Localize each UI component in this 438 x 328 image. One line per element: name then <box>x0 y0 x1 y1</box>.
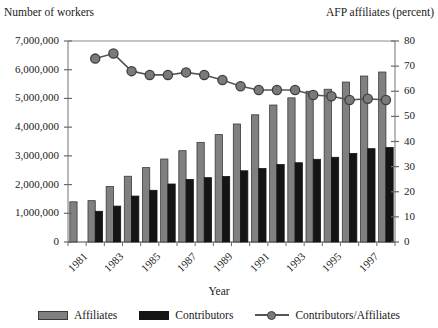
y-axis-tick-label-left: 2,000,000 <box>0 178 59 190</box>
y-axis-tick-label-right: 60 <box>404 84 415 96</box>
legend-item-ratio: Contributors/Affiliates <box>255 309 400 321</box>
y-axis-tick-label-right: 10 <box>404 210 415 222</box>
legend-label-affiliates: Affiliates <box>74 309 117 321</box>
y-axis-tick-label-right: 20 <box>404 185 415 197</box>
legend-label-ratio: Contributors/Affiliates <box>295 309 400 321</box>
y-axis-tick-label-left: 5,000,000 <box>0 91 59 103</box>
x-axis-title: Year <box>0 285 438 297</box>
y-axis-tick-label-left: 0 <box>0 235 59 247</box>
chart-legend: Affiliates Contributors Contributors/Aff… <box>0 305 438 325</box>
legend-label-contributors: Contributors <box>175 309 233 321</box>
y-axis-tick-label-right: 40 <box>404 135 415 147</box>
legend-item-contributors: Contributors <box>139 309 233 321</box>
y-axis-tick-label-right: 50 <box>404 109 415 121</box>
y-axis-tick-label-right: 70 <box>404 59 415 71</box>
y-axis-tick-label-left: 6,000,000 <box>0 63 59 75</box>
y-axis-tick-label-right: 80 <box>404 34 415 46</box>
y-axis-tick-label-left: 3,000,000 <box>0 149 59 161</box>
legend-line-marker-icon <box>255 310 289 320</box>
y-axis-tick-label-left: 4,000,000 <box>0 120 59 132</box>
y-axis-tick-label-right: 0 <box>404 235 410 247</box>
y-axis-tick-label-left: 1,000,000 <box>0 206 59 218</box>
legend-swatch-contributors <box>139 311 169 320</box>
y-axis-tick-label-right: 30 <box>404 160 415 172</box>
legend-swatch-affiliates <box>38 311 68 320</box>
chart-container: Number of workers AFP affiliates (percen… <box>0 0 438 328</box>
legend-item-affiliates: Affiliates <box>38 309 117 321</box>
y-axis-tick-label-left: 7,000,000 <box>0 34 59 46</box>
